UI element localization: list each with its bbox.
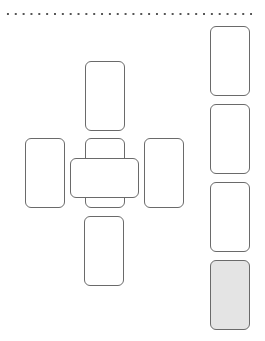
card-slot-top bbox=[85, 61, 125, 131]
card-slot-staff-1 bbox=[210, 26, 250, 96]
card-slot-staff-3 bbox=[210, 182, 250, 252]
dotted-divider bbox=[4, 13, 252, 15]
card-slot-crossing bbox=[70, 158, 139, 198]
card-slot-left bbox=[25, 138, 65, 208]
card-slot-staff-4 bbox=[210, 260, 250, 330]
card-slot-right bbox=[144, 138, 184, 208]
card-slot-staff-2 bbox=[210, 104, 250, 174]
card-slot-bottom bbox=[84, 216, 124, 286]
